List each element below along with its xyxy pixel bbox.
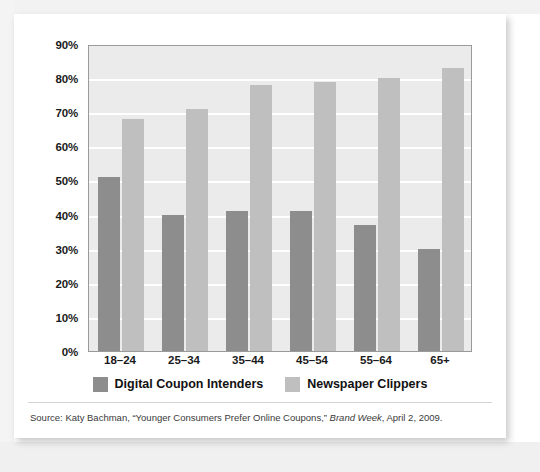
y-axis-tick-label: 30% — [56, 244, 78, 256]
y-axis-tick-label: 60% — [56, 141, 78, 153]
y-axis-tick-label: 80% — [56, 73, 78, 85]
bar[interactable] — [442, 68, 464, 351]
bar[interactable] — [122, 119, 144, 351]
bar-group — [162, 46, 208, 351]
bar[interactable] — [162, 215, 184, 351]
y-axis-tick-label: 50% — [56, 175, 78, 187]
bar[interactable] — [186, 109, 208, 351]
bar[interactable] — [354, 225, 376, 351]
bar[interactable] — [226, 211, 248, 351]
bar[interactable] — [418, 249, 440, 351]
chart-legend: Digital Coupon IntendersNewspaper Clippe… — [14, 374, 506, 394]
bar-group — [98, 46, 144, 351]
y-axis-tick-label: 70% — [56, 107, 78, 119]
source-suffix: , April 2, 2009. — [382, 412, 443, 423]
y-axis-tick-label: 10% — [56, 312, 78, 324]
x-axis-tick-label: 45–54 — [296, 354, 328, 366]
x-axis-tick-label: 65+ — [430, 354, 450, 366]
bar[interactable] — [98, 177, 120, 351]
legend-swatch-icon — [93, 377, 108, 392]
y-axis-tick-label: 0% — [62, 346, 78, 358]
bar[interactable] — [378, 78, 400, 351]
x-axis-tick-label: 18–24 — [104, 354, 136, 366]
legend-label: Newspaper Clippers — [307, 377, 427, 391]
chart-card: 0%10%20%30%40%50%60%70%80%90% 18–2425–34… — [14, 14, 506, 438]
bar[interactable] — [314, 82, 336, 351]
bar[interactable] — [290, 211, 312, 351]
section-divider — [28, 402, 492, 403]
bar-chart: 0%10%20%30%40%50%60%70%80%90% 18–2425–34… — [14, 14, 506, 398]
x-axis-tick-label: 35–44 — [232, 354, 264, 366]
source-publication: Brand Week — [330, 412, 382, 423]
bars-layer — [89, 46, 471, 351]
legend-label: Digital Coupon Intenders — [115, 377, 264, 391]
x-axis: 18–2425–3435–4445–5455–6465+ — [88, 354, 472, 374]
plot-area — [88, 45, 472, 352]
bar[interactable] — [250, 85, 272, 351]
legend-item[interactable]: Digital Coupon Intenders — [93, 377, 264, 392]
bar-group — [418, 46, 464, 351]
y-axis: 0%10%20%30%40%50%60%70%80%90% — [14, 45, 84, 352]
bar-group — [226, 46, 272, 351]
legend-item[interactable]: Newspaper Clippers — [285, 377, 427, 392]
y-axis-tick-label: 90% — [56, 39, 78, 51]
page-tint-top — [0, 0, 540, 14]
page-tint-left — [0, 0, 14, 472]
x-axis-tick-label: 25–34 — [168, 354, 200, 366]
y-axis-tick-label: 40% — [56, 210, 78, 222]
page-tint-bottom — [0, 442, 540, 472]
y-axis-tick-label: 20% — [56, 278, 78, 290]
source-citation: Source: Katy Bachman, “Younger Consumers… — [30, 412, 490, 423]
bar-group — [290, 46, 336, 351]
bar-group — [354, 46, 400, 351]
source-prefix: Source: Katy Bachman, “Younger Consumers… — [30, 412, 330, 423]
legend-swatch-icon — [285, 377, 300, 392]
x-axis-tick-label: 55–64 — [360, 354, 392, 366]
